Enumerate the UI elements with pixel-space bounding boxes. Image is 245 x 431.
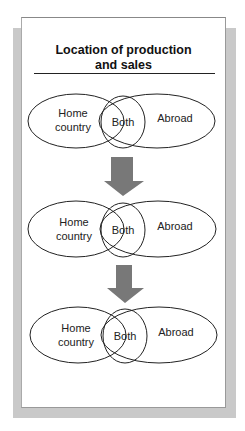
abroad-label: Abroad <box>158 326 193 338</box>
home-label-line1: Home <box>58 107 87 119</box>
abroad-label: Abroad <box>157 220 192 232</box>
home-label-line1: Home <box>59 216 88 228</box>
home-label-line2: country <box>55 121 92 133</box>
venn-stage-3: Home country Both Abroad <box>30 307 217 363</box>
home-country-ellipse <box>30 307 126 363</box>
venn-diagram-sequence: Home country Both Abroad Home country Bo… <box>22 18 225 407</box>
both-label: Both <box>114 330 137 342</box>
both-label: Both <box>112 224 135 236</box>
home-label-line2: country <box>58 336 95 348</box>
abroad-label: Abroad <box>157 112 192 124</box>
home-label-line2: country <box>56 230 93 242</box>
diagram-panel: Location of production and sales Home co… <box>21 17 226 408</box>
venn-stage-2: Home country Both Abroad <box>28 201 216 257</box>
down-arrow-icon <box>107 265 144 303</box>
home-country-ellipse <box>28 201 124 257</box>
venn-stage-1: Home country Both Abroad <box>28 94 215 148</box>
both-label: Both <box>112 116 135 128</box>
down-arrow-icon <box>104 157 144 196</box>
home-label-line1: Home <box>61 322 90 334</box>
